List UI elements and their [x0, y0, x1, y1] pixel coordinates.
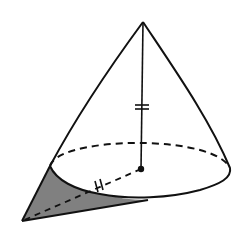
cone-left-side [50, 22, 143, 166]
radius-tick-mark-2 [100, 179, 103, 190]
cone-right-side [143, 22, 230, 168]
base-ellipse-back-dashed [50, 143, 230, 168]
cone-figure [0, 0, 244, 242]
cone-diagram [0, 0, 244, 242]
cone-altitude [141, 22, 143, 169]
radius-tick-mark-1 [95, 181, 98, 192]
